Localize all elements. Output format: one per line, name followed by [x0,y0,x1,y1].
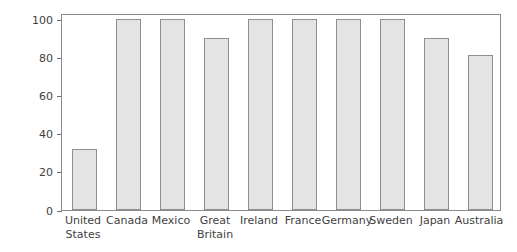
bar [72,149,97,210]
bar [336,19,361,210]
bar [424,38,449,210]
x-axis-category-labels: UnitedStatesCanadaMexicoGreatBritainIrel… [61,214,501,252]
bar [292,19,317,210]
x-axis-category-label-line: Australia [437,214,517,228]
bar [160,19,185,210]
bar [116,19,141,210]
x-axis-category-label-line: States [41,228,125,242]
plot-area [61,14,501,211]
y-axis-tick-label: 40 [39,129,57,140]
x-axis-category-label: Australia [437,214,517,228]
bar [468,55,493,210]
bar [248,19,273,210]
y-axis-tick-label: 60 [39,91,57,102]
bar-chart-figure: Percent 020406080100 UnitedStatesCanadaM… [0,0,517,252]
y-axis-tick-label: 20 [39,167,57,178]
y-axis-tick-label: 80 [39,53,57,64]
y-axis-tick-label: 100 [32,15,57,26]
x-axis-category-label-line: Britain [173,228,257,242]
bar-series [62,15,500,210]
bar [204,38,229,210]
bar [380,19,405,210]
